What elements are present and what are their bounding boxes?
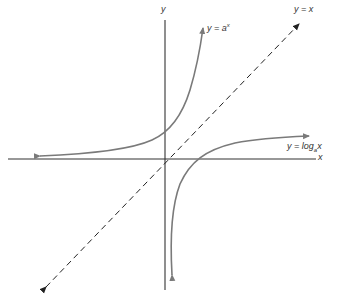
exponential-curve [40, 28, 203, 156]
logarithm-label: y = logax [287, 141, 322, 153]
y-axis-label: y [161, 4, 166, 14]
exponential-label-exponent: x [227, 22, 230, 28]
exponential-label: y = ax [207, 22, 230, 33]
x-axis-label: x [318, 152, 323, 162]
exponential-label-text: y = a [207, 23, 227, 33]
identity-line [46, 24, 299, 287]
logarithm-label-text: y = log [287, 141, 314, 151]
logarithm-curve [171, 136, 309, 275]
identity-label: y = x [294, 4, 313, 14]
logarithm-label-arg: x [317, 141, 322, 151]
